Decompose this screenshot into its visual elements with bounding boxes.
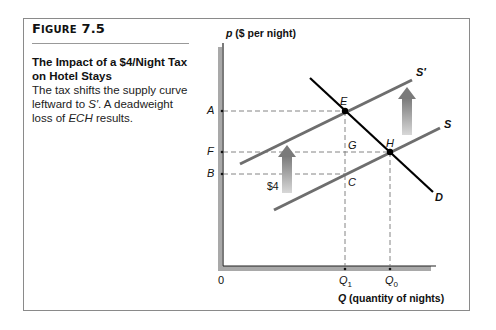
shift-arrow-icon xyxy=(398,87,416,135)
tick-Q0 xyxy=(389,268,392,271)
label-F: F xyxy=(207,145,214,157)
label-tax: $4 xyxy=(267,180,279,192)
tick-F xyxy=(221,151,224,154)
y-axis-label: p ($ per night) xyxy=(226,27,296,39)
label-Q1: Q1 xyxy=(339,274,352,289)
label-Q0: Q0 xyxy=(385,274,398,289)
label-E: E xyxy=(340,95,347,107)
x-axis-shadow xyxy=(218,266,431,271)
tick-Q1 xyxy=(344,268,347,271)
y-axis-shadow xyxy=(218,47,222,269)
tick-A xyxy=(221,110,224,113)
label-S-prime: S′ xyxy=(416,66,426,78)
demand-curve xyxy=(310,78,433,192)
chart-plot xyxy=(0,0,496,330)
x-axis-label: Q (quantity of nights) xyxy=(338,292,444,304)
supply-curve xyxy=(274,128,440,210)
point-E xyxy=(342,108,348,114)
tick-B xyxy=(221,173,224,176)
label-H: H xyxy=(386,137,394,149)
label-C: C xyxy=(348,176,356,188)
origin-label: 0 xyxy=(218,274,224,286)
label-A: A xyxy=(207,104,214,116)
label-B: B xyxy=(207,167,214,179)
label-G: G xyxy=(348,139,357,151)
point-H xyxy=(387,149,393,155)
label-D: D xyxy=(435,191,443,203)
label-S: S xyxy=(444,118,451,130)
